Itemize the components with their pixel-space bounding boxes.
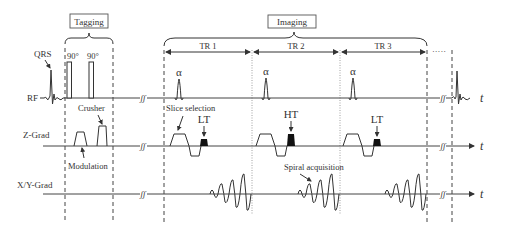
modulation-gradient — [74, 132, 87, 146]
qrs-arrow — [45, 60, 50, 68]
tr2-label: TR 2 — [287, 41, 304, 51]
spiral-acquisition-label: Spiral acquisition — [284, 162, 344, 172]
imaging-label: Imaging — [277, 17, 307, 27]
tagging-label: Tagging — [74, 17, 104, 27]
tag-gradient-lt-1 — [200, 139, 208, 146]
time-break-icon: ʃʃ — [439, 93, 447, 103]
spiral-readout-3 — [385, 174, 426, 211]
tr-intervals: TR 1 TR 2 TR 3 ····· — [166, 41, 446, 56]
crusher-arrow — [98, 115, 102, 124]
lt-label-1: LT — [198, 113, 211, 125]
next-qrs-waveform — [452, 71, 470, 104]
alpha-pulse-3 — [349, 78, 357, 100]
rf-90-pulse-2 — [89, 62, 94, 98]
slice-selection-arrow — [178, 116, 183, 130]
time-break-icon: ʃʃ — [139, 189, 147, 199]
ht-label: HT — [284, 108, 299, 120]
tag-gradient-lt-3 — [373, 139, 381, 146]
alpha-label-1: α — [176, 66, 182, 78]
alpha-label-2: α — [263, 65, 269, 77]
slice-select-gradient-1 — [170, 134, 201, 156]
slice-select-gradient-2 — [256, 134, 287, 156]
rf-label: RF — [27, 93, 38, 103]
slice-select-gradient-3 — [343, 134, 374, 156]
qrs-label: QRS — [34, 49, 52, 59]
modulation-arrow — [82, 148, 84, 158]
tagging-brace — [65, 33, 113, 44]
z-grad-channel: Z-Grad t Crusher Modulation Slice select… — [23, 103, 484, 171]
spiral-readout-2 — [298, 174, 339, 211]
tag-gradient-ht — [287, 134, 295, 146]
tagging-header: Tagging — [65, 14, 113, 44]
rf-time-axis-label: t — [480, 91, 484, 105]
rf-channel: RF QRS 90° 90° α α α ʃʃ ʃʃ t — [27, 49, 484, 105]
time-break-icon: ʃʃ — [439, 189, 447, 199]
pulse-sequence-diagram: Tagging Imaging TR 1 TR 2 TR 3 ····· RF … — [0, 0, 506, 229]
crusher-label: Crusher — [78, 103, 105, 113]
xy-grad-label: X/Y-Grad — [17, 180, 53, 190]
alpha-label-3: α — [350, 65, 356, 77]
xy-grad-time-axis-label: t — [480, 187, 484, 201]
time-break-icon: ʃʃ — [139, 93, 147, 103]
boundary-lines — [65, 48, 452, 222]
continuation-ellipsis: ····· — [432, 46, 446, 56]
spiral-readout-1 — [210, 174, 251, 211]
rf-90-pulse-1 — [67, 62, 72, 98]
z-grad-label: Z-Grad — [23, 130, 50, 140]
tr1-label: TR 1 — [199, 41, 216, 51]
alpha-pulse-2 — [262, 78, 270, 100]
slice-selection-label: Slice selection — [166, 103, 216, 113]
time-break-icon: ʃʃ — [439, 141, 447, 151]
pulse-90-label-2: 90° — [87, 51, 99, 61]
spiral-acquisition-arrow — [300, 174, 311, 181]
time-break-icon: ʃʃ — [139, 141, 147, 151]
qrs-waveform — [40, 70, 65, 104]
lt-label-3: LT — [371, 113, 384, 125]
tr3-label: TR 3 — [374, 41, 391, 51]
modulation-label: Modulation — [68, 161, 108, 171]
z-grad-time-axis-label: t — [480, 139, 484, 153]
alpha-pulse-1 — [175, 79, 183, 100]
crusher-gradient — [97, 126, 107, 146]
pulse-90-label-1: 90° — [67, 51, 79, 61]
